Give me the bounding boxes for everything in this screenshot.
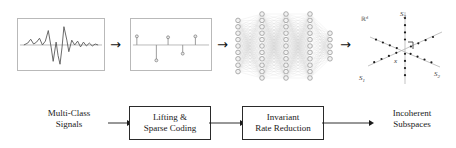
subspace-points [373, 17, 434, 76]
network-node [260, 57, 265, 62]
network-edge [310, 46, 330, 78]
subspace-sample-point [373, 61, 375, 63]
network-node [284, 44, 289, 49]
subspace-sample-point [416, 56, 418, 58]
network-node [236, 69, 241, 74]
network-node [308, 44, 313, 49]
subspace-sample-point [380, 58, 382, 60]
signal-waveform-panel [17, 18, 105, 71]
sparse-stem-marker [181, 52, 184, 55]
network-node [308, 69, 313, 74]
subspace-sample-point [423, 58, 425, 60]
subspace-sample-point [382, 41, 384, 43]
deep-network-svg [232, 5, 336, 87]
network-edge [238, 14, 262, 46]
network-node [236, 37, 241, 42]
network-node [260, 25, 265, 30]
stage-arrow-2-icon: → [217, 38, 228, 51]
network-node [236, 25, 241, 30]
network-node [284, 76, 289, 81]
sparse-stem-marker [135, 35, 138, 38]
network-node [260, 69, 265, 74]
flow-input-label-line2: Signals [30, 119, 108, 130]
network-node [260, 44, 265, 49]
subspace-sample-point [410, 53, 412, 55]
network-edge [238, 72, 262, 78]
subspace-sample-point [404, 38, 406, 40]
network-node [328, 57, 333, 62]
network-node [236, 63, 241, 68]
stage-arrow-1-icon: → [110, 38, 121, 51]
network-node [328, 50, 333, 55]
network-node [308, 63, 313, 68]
network-edge [310, 33, 330, 78]
network-node [284, 69, 289, 74]
network-node [260, 18, 265, 23]
sparse-stem-marker [167, 36, 170, 39]
network-node [236, 18, 241, 23]
network-edge [310, 33, 330, 65]
flow-connector-2 [209, 116, 245, 130]
subspace-sample-point [375, 39, 377, 41]
subspace-sample-point [425, 39, 427, 41]
stage-arrow-3-icon: → [340, 38, 351, 51]
network-node [260, 50, 265, 55]
subspace-axes [368, 12, 442, 84]
subspace-sample-point [404, 31, 406, 33]
network-node [260, 63, 265, 68]
subspace-sample-point [396, 47, 398, 49]
network-node [308, 31, 313, 36]
subspace-sample-point [389, 44, 391, 46]
flow-box-invariant-text: Invariant Rate Reduction [255, 112, 311, 134]
signal-trace [24, 27, 98, 65]
subspace-sample-point [432, 36, 434, 38]
network-edge [238, 14, 262, 33]
subspace-label-s1: S1 [359, 74, 365, 83]
network-node [328, 44, 333, 49]
flow-input-label-line1: Multi-Class [30, 108, 108, 119]
subspace-sample-point [388, 55, 390, 57]
subspace-sample-point [404, 24, 406, 26]
network-node [328, 37, 333, 42]
network-node [260, 12, 265, 17]
flow-box-lifting-text: Lifting & Sparse Coding [144, 112, 197, 134]
subspace-sample-point [404, 53, 406, 55]
network-node [284, 50, 289, 55]
flow-connector-2-svg [209, 116, 245, 130]
flow-box-invariant-line1: Invariant [255, 112, 311, 123]
network-edge [310, 14, 330, 33]
network-edge [238, 14, 262, 59]
network-node [308, 18, 313, 23]
deep-network-diagram [232, 5, 336, 87]
subspace-scatter-svg: ℝd S3 S1 S2 x [356, 4, 454, 90]
subspace-scatter-diagram: ℝd S3 S1 S2 x [356, 4, 454, 90]
flow-box-lifting-line1: Lifting & [144, 112, 197, 123]
network-node [236, 44, 241, 49]
network-node [284, 63, 289, 68]
network-edge [238, 14, 262, 72]
network-node [260, 76, 265, 81]
network-node [236, 57, 241, 62]
flow-box-lifting-sparse-coding[interactable]: Lifting & Sparse Coding [129, 106, 211, 140]
flow-input-label: Multi-Class Signals [30, 108, 108, 130]
network-node [260, 37, 265, 42]
sparse-code-panel [130, 18, 212, 71]
subspace-sample-point [404, 60, 406, 62]
subspace-sample-point [417, 42, 419, 44]
subspace-sample-point [404, 67, 406, 69]
subspace-label-s3: S3 [400, 10, 407, 19]
signal-waveform-svg [18, 19, 104, 70]
flow-output-label: Incoherent Subspaces [372, 108, 452, 130]
network-node [236, 31, 241, 36]
network-node [284, 12, 289, 17]
network-edge [310, 52, 330, 78]
flow-box-invariant-rate-reduction[interactable]: Invariant Rate Reduction [242, 106, 324, 140]
pipeline-figure: → → → ℝd [0, 0, 456, 148]
subspace-sample-point [410, 45, 412, 47]
network-node [284, 37, 289, 42]
sparse-stem-group [135, 35, 196, 62]
flow-connector-3-svg [322, 116, 374, 130]
network-node [308, 57, 313, 62]
network-edge [310, 59, 330, 78]
network-node [284, 31, 289, 36]
